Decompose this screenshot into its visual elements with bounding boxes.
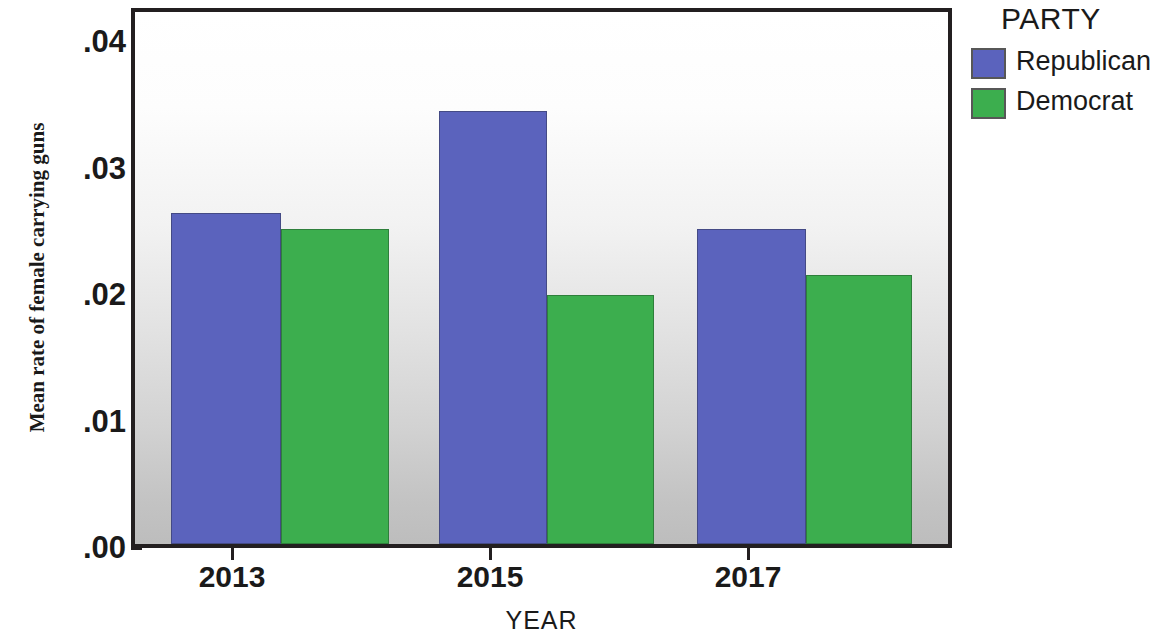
bar-chart: Mean rate of female carrying guns .04.03… <box>0 0 1153 641</box>
legend-title: PARTY <box>1001 2 1101 36</box>
x-tick-label: 2017 <box>688 562 808 592</box>
bar-republican-2015 <box>439 111 547 544</box>
x-tick-label: 2015 <box>430 562 550 592</box>
plot-area <box>131 8 952 548</box>
bar-republican-2017 <box>697 229 806 544</box>
x-axis: YEAR 201320152017 <box>131 548 952 641</box>
legend-label: Republican <box>1016 46 1151 77</box>
y-axis-ticks: .04.03.02.01.00 <box>30 0 126 641</box>
x-tick-mark <box>747 548 750 560</box>
x-axis-title: YEAR <box>131 606 952 635</box>
bar-democrat-2015 <box>547 295 654 544</box>
y-tick-label: .03 <box>40 153 126 184</box>
bars-layer <box>135 12 948 544</box>
legend-swatch-republican <box>971 48 1006 79</box>
x-tick-mark <box>231 548 234 560</box>
bar-democrat-2013 <box>281 229 389 544</box>
y-tick-label: .01 <box>40 406 126 437</box>
x-tick-mark <box>489 548 492 560</box>
legend-label: Democrat <box>1016 86 1133 117</box>
legend-swatch-democrat <box>971 88 1006 119</box>
legend: PARTY RepublicanDemocrat <box>963 0 1153 140</box>
x-tick-label: 2013 <box>172 562 292 592</box>
bar-democrat-2017 <box>806 275 912 544</box>
y-tick-label: .02 <box>40 279 126 310</box>
y-tick-label: .00 <box>40 532 126 563</box>
bar-republican-2013 <box>171 213 281 544</box>
y-tick-label: .04 <box>40 26 126 57</box>
